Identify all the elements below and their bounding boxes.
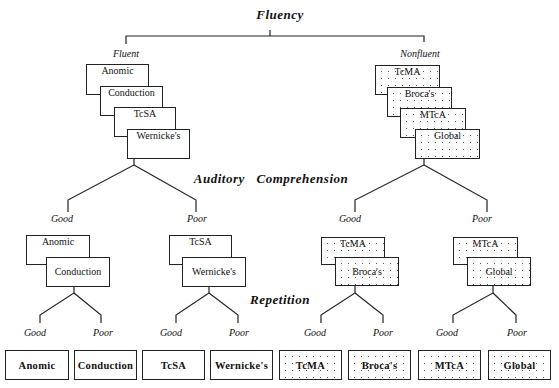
stack-box-wernickes: Wernicke's [127, 129, 190, 159]
final-box-anomic: Anomic [5, 350, 69, 380]
mid-box-conduction: Conduction [46, 257, 110, 287]
final-box-mtca: MTcA [418, 350, 481, 380]
final-box-wernickes: Wernicke's [210, 350, 273, 380]
final-box-tcsa: TcSA [142, 350, 205, 380]
mid-box-wernickes: Wernicke's [182, 257, 246, 287]
repetition-good-2: Good [160, 328, 182, 338]
repetition-good-4: Good [436, 328, 458, 338]
auditory-comprehension-title: Auditory Comprehension [194, 172, 348, 185]
final-box-tcma: TcMA [279, 350, 342, 380]
fluency-title: Fluency [256, 8, 304, 21]
mid-box-global: Global [467, 257, 531, 286]
repetition-title: Repetition [250, 293, 310, 306]
repetition-poor-2: Poor [229, 328, 249, 338]
repetition-good-3: Good [304, 328, 326, 338]
stack-box-global: Global [415, 129, 480, 159]
nonfluent-label: Nonfluent [400, 49, 439, 59]
repetition-poor-3: Poor [373, 328, 393, 338]
comprehension-good-fluent: Good [51, 214, 73, 224]
comprehension-poor-fluent: Poor [187, 214, 207, 224]
comprehension-good-nonfluent: Good [339, 214, 361, 224]
repetition-good-1: Good [24, 328, 46, 338]
fluency-bracket [126, 36, 424, 44]
fluent-label: Fluent [113, 49, 139, 59]
repetition-poor-4: Poor [507, 328, 527, 338]
tree-connectors [0, 0, 559, 388]
repetition-poor-1: Poor [93, 328, 113, 338]
final-box-global: Global [488, 350, 551, 380]
final-box-conduction: Conduction [74, 350, 137, 380]
comprehension-poor-nonfluent: Poor [472, 214, 492, 224]
mid-box-brocas: Broca's [335, 257, 399, 286]
final-box-brocas: Broca's [348, 350, 411, 380]
